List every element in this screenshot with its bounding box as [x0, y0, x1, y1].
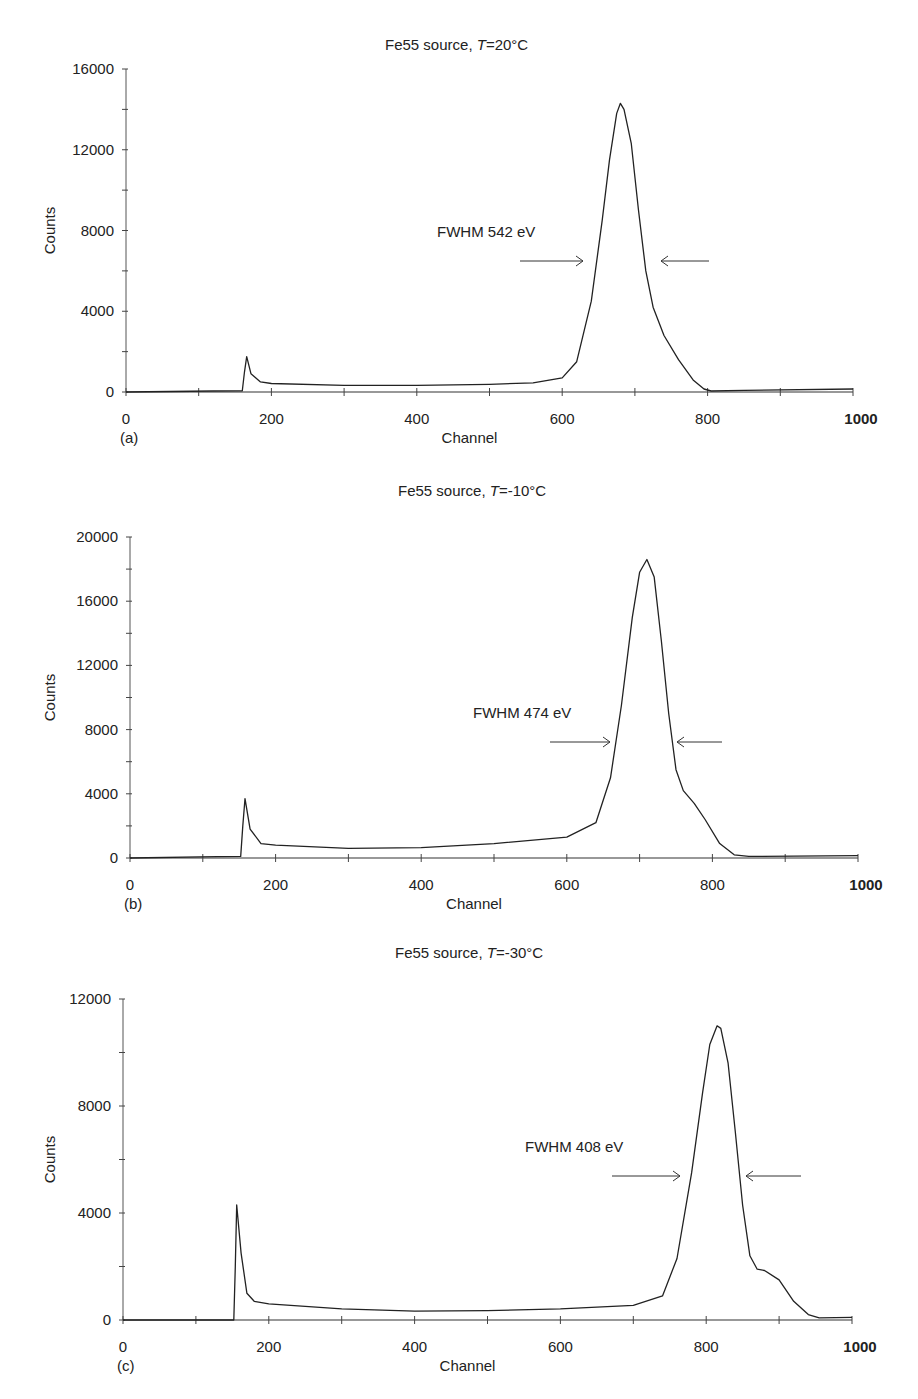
x-tick-label: 400: [402, 1338, 427, 1355]
x-tick-label: 0: [126, 876, 134, 893]
x-tick-label: 600: [550, 410, 575, 427]
chart-panel-b: Fe55 source, T=-10°C 0400080001200016000…: [0, 465, 918, 930]
x-tick-label: 1000: [844, 410, 877, 427]
x-tick-label: 1000: [849, 876, 882, 893]
panel-label: (b): [124, 895, 142, 912]
y-tick-label: 12000: [76, 656, 118, 673]
y-tick-label: 12000: [72, 141, 114, 158]
x-tick-label: 0: [122, 410, 130, 427]
x-tick-label: 400: [409, 876, 434, 893]
y-tick-label: 16000: [76, 592, 118, 609]
x-tick-label: 200: [259, 410, 284, 427]
y-tick-label: 12000: [69, 990, 111, 1007]
spectrum-line: [126, 103, 853, 392]
y-tick-label: 16000: [72, 60, 114, 77]
y-tick-label: 0: [110, 849, 118, 866]
y-tick-label: 0: [106, 383, 114, 400]
x-tick-label: 400: [404, 410, 429, 427]
x-tick-label: 0: [119, 1338, 127, 1355]
x-axis-label: Channel: [446, 895, 502, 912]
x-tick-label: 1000: [843, 1338, 876, 1355]
x-tick-label: 200: [256, 1338, 281, 1355]
y-axis-label: Counts: [41, 207, 58, 255]
plot-area: 0400080001200002004006008001000ChannelCo…: [0, 930, 918, 1399]
x-tick-label: 200: [263, 876, 288, 893]
panel-label: (c): [117, 1357, 135, 1374]
y-tick-label: 4000: [81, 302, 114, 319]
y-tick-label: 8000: [81, 222, 114, 239]
x-tick-label: 600: [548, 1338, 573, 1355]
panel-label: (a): [120, 429, 138, 446]
chart-panel-a: Fe55 source, T=20°C 04000800012000160000…: [0, 0, 918, 465]
y-tick-label: 0: [103, 1311, 111, 1328]
y-tick-label: 4000: [85, 785, 118, 802]
x-tick-label: 800: [694, 1338, 719, 1355]
plot-area: 040008000120001600002004006008001000Chan…: [0, 0, 918, 465]
fwhm-annotation: FWHM 474 eV: [473, 704, 571, 721]
spectrum-line: [123, 1026, 852, 1320]
y-tick-label: 20000: [76, 528, 118, 545]
x-tick-label: 600: [554, 876, 579, 893]
plot-area: 0400080001200016000200000200400600800100…: [0, 465, 918, 930]
y-tick-label: 4000: [78, 1204, 111, 1221]
fwhm-annotation: FWHM 542 eV: [437, 223, 535, 240]
x-axis-label: Channel: [440, 1357, 496, 1374]
x-axis-label: Channel: [442, 429, 498, 446]
chart-panel-c: Fe55 source, T=-30°C 0400080001200002004…: [0, 930, 918, 1399]
fwhm-annotation: FWHM 408 eV: [525, 1138, 623, 1155]
y-tick-label: 8000: [78, 1097, 111, 1114]
y-axis-label: Counts: [41, 1136, 58, 1184]
x-tick-label: 800: [700, 876, 725, 893]
y-tick-label: 8000: [85, 721, 118, 738]
x-tick-label: 800: [695, 410, 720, 427]
y-axis-label: Counts: [41, 674, 58, 722]
